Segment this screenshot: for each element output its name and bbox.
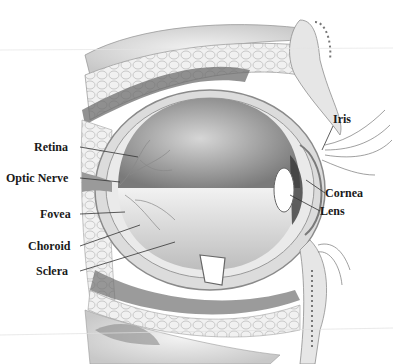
eye-anatomy-diagram: Retina Optic Nerve Fovea Choroid Sclera … bbox=[0, 0, 393, 364]
label-lens: Lens bbox=[320, 204, 345, 218]
label-fovea: Fovea bbox=[40, 207, 71, 221]
label-optic-nerve: Optic Nerve bbox=[6, 171, 68, 185]
label-sclera: Sclera bbox=[36, 264, 68, 278]
label-retina: Retina bbox=[34, 140, 68, 154]
label-cornea: Cornea bbox=[325, 186, 363, 200]
label-iris: Iris bbox=[333, 112, 351, 126]
label-choroid: Choroid bbox=[28, 239, 70, 253]
